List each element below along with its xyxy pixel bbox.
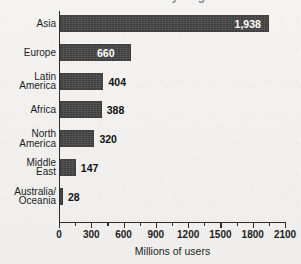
x-tick-major bbox=[124, 223, 125, 228]
x-tick-label: 600 bbox=[115, 229, 132, 240]
bar-row: North America320 bbox=[0, 130, 301, 147]
x-tick-minor bbox=[140, 223, 141, 226]
category-label: North America bbox=[0, 129, 56, 148]
x-axis-title: Millions of users bbox=[59, 245, 286, 257]
bar bbox=[60, 101, 102, 118]
bar-value-label: 28 bbox=[68, 191, 80, 203]
category-label: Australia/ Oceania bbox=[0, 187, 56, 206]
x-tick-label: 2100 bbox=[274, 229, 296, 240]
bar-value-label: 1,938 bbox=[235, 18, 261, 30]
x-tick-major bbox=[188, 223, 189, 228]
category-label: Latin America bbox=[0, 72, 56, 91]
bar-row: Middle East147 bbox=[0, 159, 301, 176]
category-label: Europe bbox=[0, 48, 56, 57]
x-tick-minor bbox=[204, 223, 205, 226]
bar bbox=[60, 130, 94, 147]
x-tick-major bbox=[59, 223, 60, 228]
x-tick-minor bbox=[75, 223, 76, 226]
x-tick-minor bbox=[107, 223, 108, 226]
bar-row: Africa388 bbox=[0, 101, 301, 118]
bar-value-label: 660 bbox=[97, 47, 115, 59]
x-tick-label: 1200 bbox=[177, 229, 199, 240]
x-tick-minor bbox=[269, 223, 270, 226]
bar bbox=[60, 44, 131, 61]
bar-row: Australia/ Oceania28 bbox=[0, 188, 301, 205]
x-tick-minor bbox=[237, 223, 238, 226]
x-tick-label: 0 bbox=[56, 229, 62, 240]
bar-chart-figure: Internet Users by Region 030060090012001… bbox=[0, 0, 301, 264]
x-tick-major bbox=[220, 223, 221, 228]
bar bbox=[60, 159, 76, 176]
x-tick-major bbox=[253, 223, 254, 228]
category-label: Africa bbox=[0, 105, 56, 114]
bar-row: Asia1,938 bbox=[0, 15, 301, 32]
bar-value-label: 320 bbox=[99, 133, 117, 145]
bar-value-label: 388 bbox=[107, 104, 125, 116]
x-tick-major bbox=[156, 223, 157, 228]
x-tick-label: 900 bbox=[148, 229, 165, 240]
x-tick-minor bbox=[172, 223, 173, 226]
x-tick-label: 1500 bbox=[209, 229, 231, 240]
bar-value-label: 404 bbox=[108, 76, 126, 88]
bar-value-label: 147 bbox=[81, 162, 99, 174]
plot-area: 03006009001200150018002100 Millions of u… bbox=[0, 0, 301, 264]
bar-row: Europe660 bbox=[0, 44, 301, 61]
x-tick-label: 1800 bbox=[242, 229, 264, 240]
x-tick-major bbox=[285, 223, 286, 228]
bar-row: Latin America404 bbox=[0, 73, 301, 90]
bar bbox=[60, 73, 103, 90]
category-label: Asia bbox=[0, 19, 56, 28]
category-label: Middle East bbox=[0, 158, 56, 177]
bar bbox=[60, 188, 63, 205]
x-tick-label: 300 bbox=[83, 229, 100, 240]
x-tick-major bbox=[91, 223, 92, 228]
